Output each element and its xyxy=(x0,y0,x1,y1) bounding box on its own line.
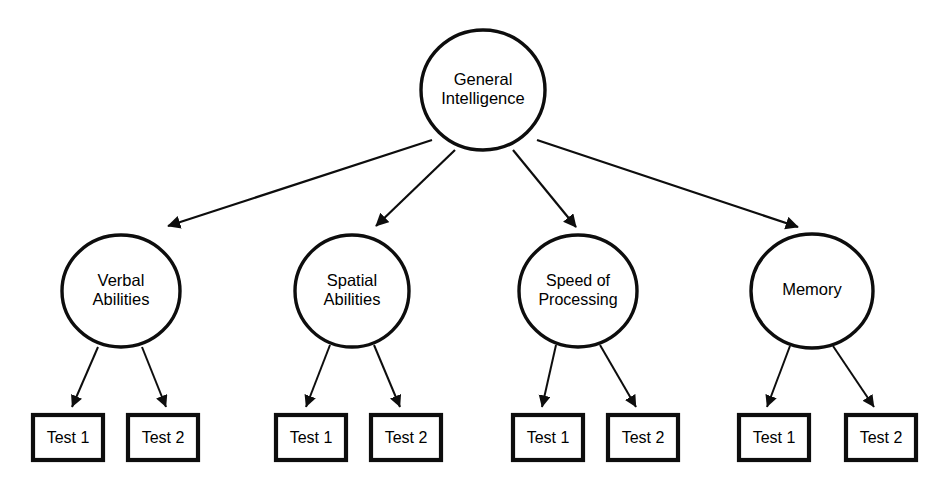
test-box: Test 2 xyxy=(846,415,916,460)
edge-root-to-speed xyxy=(513,150,576,227)
memory-test-2-label: Test 2 xyxy=(860,429,903,446)
edge-root-to-memory xyxy=(537,140,798,227)
general-intelligence-label-line1: General xyxy=(454,70,513,88)
speed-test-2-label: Test 2 xyxy=(622,429,665,446)
factor-to-test-edges xyxy=(72,345,874,407)
verbal-abilities-label-line2: Abilities xyxy=(93,290,150,308)
spatial-abilities-label-line2: Abilities xyxy=(324,290,381,308)
test-box: Test 2 xyxy=(128,415,198,460)
edge-speed-to-test-2 xyxy=(600,345,636,407)
edge-verbal-to-test-1 xyxy=(72,347,98,407)
node-spatial-abilities: Spatial Abilities xyxy=(295,235,409,347)
speed-of-processing-label-line1: Speed of xyxy=(546,272,611,289)
edge-speed-to-test-1 xyxy=(542,345,556,407)
edge-memory-to-test-1 xyxy=(767,346,790,407)
spatial-test-2-label: Test 2 xyxy=(385,429,428,446)
edge-verbal-to-test-2 xyxy=(142,347,166,407)
memory-test-1-label: Test 1 xyxy=(753,429,796,446)
speed-of-processing-label-line2: Processing xyxy=(538,291,617,308)
node-verbal-abilities: Verbal Abilities xyxy=(62,235,180,347)
intelligence-hierarchy-diagram: General Intelligence Verbal Abilities Sp… xyxy=(0,0,951,489)
edge-root-to-verbal xyxy=(168,140,432,226)
test-box: Test 1 xyxy=(276,415,346,460)
verbal-test-2-label: Test 2 xyxy=(142,429,185,446)
edge-root-to-spatial xyxy=(376,150,455,226)
memory-label-line1: Memory xyxy=(782,280,842,298)
test-box: Test 2 xyxy=(608,415,678,460)
node-general-intelligence: General Intelligence xyxy=(421,30,545,150)
test-box: Test 2 xyxy=(371,415,441,460)
node-memory: Memory xyxy=(751,234,873,348)
test-box: Test 1 xyxy=(739,415,809,460)
general-intelligence-label-line2: Intelligence xyxy=(441,89,524,107)
node-speed-of-processing: Speed of Processing xyxy=(519,235,637,347)
test-box: Test 1 xyxy=(33,415,103,460)
spatial-abilities-label-line1: Spatial xyxy=(327,271,377,289)
root-to-factor-edges xyxy=(168,140,798,227)
test-boxes: Test 1 Test 2 Test 1 Test 2 Test 1 Test … xyxy=(33,415,916,460)
edge-spatial-to-test-2 xyxy=(374,345,400,407)
spatial-test-1-label: Test 1 xyxy=(290,429,333,446)
speed-test-1-label: Test 1 xyxy=(527,429,570,446)
verbal-abilities-label-line1: Verbal xyxy=(98,271,145,289)
edge-memory-to-test-2 xyxy=(833,346,874,407)
test-box: Test 1 xyxy=(513,415,583,460)
edge-spatial-to-test-1 xyxy=(306,345,330,407)
hierarchy-svg-canvas: General Intelligence Verbal Abilities Sp… xyxy=(0,0,951,489)
verbal-test-1-label: Test 1 xyxy=(47,429,90,446)
